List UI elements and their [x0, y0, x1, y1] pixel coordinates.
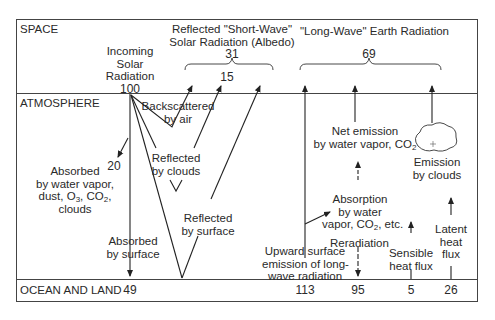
- incoming-value: 100: [100, 83, 160, 96]
- absorbed-atmosphere-label: Absorbed by water vapor, dust, O3, CO2, …: [36, 165, 114, 215]
- albedo-total: 31: [222, 48, 242, 61]
- longwave-title: "Long-Wave" Earth Radiation: [300, 25, 442, 38]
- zone-label-ocean-land: OCEAN AND LAND: [20, 284, 122, 297]
- albedo-clouds-value: 15: [217, 71, 237, 84]
- albedo-label: Reflected "Short-Wave" Solar Radiation (…: [162, 23, 302, 48]
- incoming-solar-label: Incoming Solar Radiation 100: [100, 45, 160, 95]
- reflected-surface-label: Reflected by surface: [180, 212, 236, 237]
- cloud-icon: [415, 123, 456, 151]
- emission-clouds-label: Emission by clouds: [412, 156, 462, 181]
- zone-label-atmosphere: ATMOSPHERE: [20, 97, 100, 110]
- zone-label-space: SPACE: [20, 23, 58, 36]
- surface-sensible-value: 5: [401, 284, 421, 297]
- surface-latent-value: 26: [441, 284, 461, 297]
- absorbed-surface-label: Absorbed by surface: [104, 235, 162, 260]
- reflected-clouds-label: Reflected by clouds: [148, 152, 204, 177]
- net-emission-label: Net emission by water vapor, CO2: [310, 125, 420, 150]
- backscattered-label: Backscattered by air: [140, 100, 216, 125]
- absorption-label: Absorption by water vapor, CO2, etc.: [322, 193, 398, 231]
- upward-emission-label: Upward surface emission of long- wave ra…: [262, 245, 348, 283]
- longwave-total: 69: [359, 48, 379, 61]
- surface-absorbed-value: 49: [120, 284, 140, 297]
- sensible-heat-label: Sensible heat flux: [386, 247, 436, 272]
- latent-heat-label: Latent heat flux: [432, 223, 470, 261]
- surface-upward-value: 113: [293, 284, 317, 297]
- surface-reradiation-value: 95: [348, 284, 368, 297]
